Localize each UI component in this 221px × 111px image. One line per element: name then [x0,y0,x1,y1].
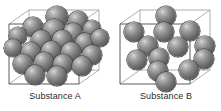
atom [127,50,147,70]
unit-cell-comparison-figure: Substance A [0,0,221,111]
atom [168,37,188,57]
atom [72,56,92,76]
caption-substance-b: Substance B [111,90,221,102]
atom [179,60,199,80]
unit-cell-diagram-b [111,0,221,92]
caption-substance-a: Substance A [0,90,110,102]
atom [47,66,67,86]
panel-substance-a: Substance A [0,0,110,111]
atom [25,65,45,85]
atom-layer-b [111,0,221,92]
unit-cell-diagram-a [0,0,110,92]
atom [156,72,176,92]
atom-layer-a [0,0,110,92]
panel-substance-b: Substance B [111,0,221,111]
